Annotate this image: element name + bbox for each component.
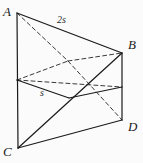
vertex-label-c: C xyxy=(3,145,12,158)
vertex-label-a: A xyxy=(3,5,11,18)
vertex-label-d: D xyxy=(128,120,137,133)
hidden-edge-G-D xyxy=(68,61,122,120)
edge-length-label-s: s xyxy=(40,88,44,98)
vertex-label-b: B xyxy=(128,38,136,51)
solid-edge-group xyxy=(17,13,122,148)
edge-A-B xyxy=(17,13,122,53)
hidden-edge-E-G xyxy=(17,61,68,80)
dashed-edge-group xyxy=(17,13,122,120)
geometry-canvas xyxy=(0,0,143,163)
geometry-figure: A B C D 2s s xyxy=(0,0,143,163)
edge-length-label-2s: 2s xyxy=(57,15,66,25)
edge-H-F xyxy=(69,87,122,98)
